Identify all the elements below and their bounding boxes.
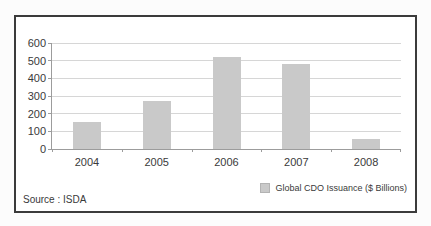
x-axis-tick [122,149,123,152]
x-axis-tick [261,149,262,152]
y-axis-label-400: 400 [16,72,46,84]
y-axis-tick-600 [48,43,52,44]
x-axis-tick [400,149,401,152]
gridline-600 [52,43,401,44]
figure-canvas: { "window": { "background": "#fcfcfc" },… [0,0,431,226]
x-axis-tick [331,149,332,152]
legend: Global CDO Issuance ($ Billions) [260,183,407,193]
bar-2005 [143,101,171,149]
y-axis-label-200: 200 [16,108,46,120]
x-axis-tick [192,149,193,152]
y-axis-tick-200 [48,113,52,114]
x-axis-tick [52,149,53,152]
plot-area: 010020030040050060020042005200620072008 [51,43,401,150]
y-axis-label-600: 600 [16,37,46,49]
bar-2006 [213,57,241,149]
y-axis-label-100: 100 [16,125,46,137]
chart-frame: 010020030040050060020042005200620072008 … [14,15,417,213]
y-axis-tick-100 [48,131,52,132]
bar-2004 [73,122,101,149]
y-axis-label-0: 0 [16,143,46,155]
x-axis-label-2004: 2004 [62,156,112,168]
x-axis-label-2006: 2006 [202,156,252,168]
bar-2007 [282,64,310,149]
y-axis-tick-400 [48,78,52,79]
x-axis-label-2007: 2007 [271,156,321,168]
legend-label: Global CDO Issuance ($ Billions) [275,183,407,193]
bar-2008 [352,139,380,149]
x-axis-label-2005: 2005 [132,156,182,168]
y-axis-tick-300 [48,96,52,97]
y-axis-label-500: 500 [16,55,46,67]
y-axis-tick-500 [48,60,52,61]
y-axis-label-300: 300 [16,90,46,102]
x-axis-label-2008: 2008 [341,156,391,168]
source-label: Source : ISDA [23,194,86,205]
legend-swatch-icon [260,183,270,193]
